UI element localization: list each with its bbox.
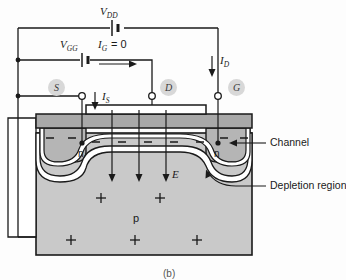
terminal-badge-drain: D xyxy=(160,79,177,96)
drain-terminal-node xyxy=(149,93,156,100)
ig-label: IG= 0 xyxy=(98,38,127,53)
terminal-nodes xyxy=(79,93,222,100)
figure-caption: (b) xyxy=(163,268,175,279)
p-substrate-label: p xyxy=(133,212,139,224)
perspective-side-panel xyxy=(8,118,36,237)
vdd-label: VDD xyxy=(100,5,118,20)
terminal-badge-gate: G xyxy=(228,79,245,96)
source-contact-dot xyxy=(79,140,84,145)
terminal-badge-source: S xyxy=(48,79,65,96)
gate-metal-plate xyxy=(86,105,206,114)
channel-callout-label: Channel xyxy=(270,136,309,148)
id-arrow xyxy=(209,56,216,77)
id-label: ID xyxy=(220,54,229,69)
n-drain-label: n xyxy=(214,148,220,159)
left-rail-junction-dot xyxy=(16,58,21,63)
oxide-layer xyxy=(36,114,252,128)
left-rail-source-junction-dot xyxy=(16,94,21,99)
ig-arrow xyxy=(99,61,137,68)
source-terminal-node xyxy=(79,93,86,100)
terminal-label-drain: D xyxy=(165,82,172,93)
terminal-label-gate: G xyxy=(233,82,240,93)
drain-contact-dot xyxy=(215,140,220,145)
is-label: IS xyxy=(102,90,109,105)
depletion-region-callout-label: Depletion region xyxy=(270,179,346,191)
terminal-label-source: S xyxy=(54,82,59,93)
e-field-label: E xyxy=(172,168,179,180)
gate-terminal-node xyxy=(215,93,222,100)
figure-canvas: VDD VGG IG= 0 ID IS S D G n n E p Channe… xyxy=(0,0,346,280)
n-source-label: n xyxy=(78,148,84,159)
vgg-label: VGG xyxy=(60,38,78,53)
